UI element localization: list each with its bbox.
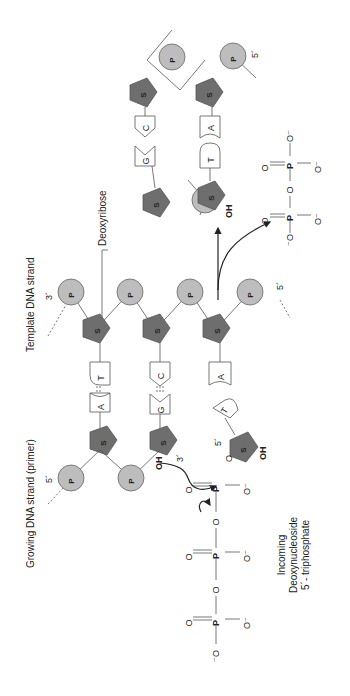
svg-text:A: A: [206, 125, 216, 131]
svg-text:P: P: [127, 478, 136, 484]
svg-text:O: O: [184, 619, 194, 626]
svg-text:P: P: [67, 292, 76, 298]
product-sugar-3: S: [143, 188, 170, 217]
deoxyribose-label: Deoxyribose: [97, 190, 108, 246]
svg-text:T: T: [96, 375, 106, 381]
svg-text:⁻O: ⁻O: [211, 650, 221, 662]
template-phosphate-2: P: [117, 279, 143, 305]
product-sugar-2: S: [196, 78, 223, 107]
svg-text:O⁻: O⁻: [242, 550, 252, 562]
growing-base-A: A: [90, 393, 110, 412]
product-phosphate-1: P: [159, 44, 185, 70]
svg-text:S: S: [93, 328, 102, 334]
svg-text:O: O: [285, 186, 295, 193]
svg-text:P: P: [168, 57, 177, 63]
growing-strand-label: Growing DNA strand (primer): [25, 439, 36, 568]
svg-text:P: P: [285, 215, 295, 221]
svg-text:P: P: [211, 486, 221, 492]
incoming-5-end: 5´: [213, 438, 223, 446]
product-phosphate-2: P: [220, 43, 246, 69]
incoming-base-T: T: [213, 399, 238, 418]
svg-text:S: S: [239, 447, 248, 453]
template-dashed-end: [48, 305, 66, 336]
svg-text:O⁻: O⁻: [242, 483, 252, 495]
svg-text:O⁻: O⁻: [313, 161, 323, 173]
svg-text:P: P: [211, 620, 221, 626]
pyrophosphate-release-arrow: [218, 222, 270, 290]
svg-text:G: G: [156, 406, 166, 413]
svg-text:A: A: [96, 404, 106, 410]
svg-text:A: A: [216, 374, 226, 380]
svg-text:O⁻: O⁻: [285, 130, 295, 142]
product-base-A: A: [200, 116, 220, 138]
incoming-sugar: S: [230, 432, 258, 462]
svg-text:O: O: [260, 164, 270, 171]
svg-text:O⁻: O⁻: [313, 213, 323, 225]
incoming-label-3: 5´- triphosphate: [300, 520, 311, 590]
svg-text:P: P: [229, 56, 238, 62]
template-phosphate-3: P: [177, 279, 203, 305]
growing-sugar-2: S: [150, 426, 177, 455]
template-3-end: 3´: [44, 292, 54, 300]
template-strand-label: Template DNA strand: [25, 258, 36, 353]
growing-5-end: 5´: [44, 475, 54, 483]
template-phosphate-1: P: [58, 279, 84, 305]
svg-text:S: S: [99, 440, 108, 446]
svg-text:P: P: [246, 292, 255, 298]
product-5-end: 5´: [250, 50, 260, 58]
svg-text:⁻O: ⁻O: [285, 234, 295, 246]
svg-text:S: S: [205, 92, 214, 98]
svg-text:S: S: [207, 195, 216, 201]
growing-3-end: 3´: [175, 454, 185, 462]
svg-text:S: S: [139, 92, 148, 98]
template-dashed-end-5: [280, 300, 290, 318]
svg-text:O: O: [184, 486, 194, 493]
incoming-label-1: Incoming: [276, 535, 287, 576]
dna-replication-diagram: Growing DNA strand (primer) Template DNA…: [0, 0, 350, 696]
growing-base-G: G: [150, 394, 170, 414]
svg-text:T: T: [206, 157, 216, 163]
incoming-o: O: [224, 455, 234, 462]
growing-phosphate-2: P: [118, 465, 144, 491]
svg-text:P: P: [285, 163, 295, 169]
template-5-end: 5´: [275, 282, 285, 290]
electron-arrow: [200, 501, 210, 512]
svg-text:O: O: [184, 553, 194, 560]
svg-text:S: S: [153, 328, 162, 334]
product-base-C: C: [135, 116, 155, 137]
svg-text:C: C: [156, 372, 166, 379]
svg-text:O: O: [211, 586, 221, 593]
svg-text:C: C: [141, 124, 151, 131]
svg-text:O⁻: O⁻: [242, 617, 252, 629]
triphosphate: O P O⁻ O O P O⁻ O O P O⁻ ⁻O: [184, 483, 252, 662]
incoming-oh: OH: [258, 447, 268, 461]
svg-text:P: P: [67, 478, 76, 484]
product-base-T: T: [200, 143, 220, 168]
svg-text:S: S: [213, 328, 222, 334]
template-base-T: T: [90, 362, 110, 385]
template-base-C: C: [150, 362, 170, 386]
attack-arrow: [160, 463, 216, 489]
product-sugar-1: S: [130, 78, 157, 107]
pyrophosphate: ⁻O O P O⁻ O O P O⁻ O⁻: [260, 130, 323, 246]
growing-phosphate-1: P: [58, 465, 84, 491]
svg-text:S: S: [152, 202, 161, 208]
product-base-G: G: [135, 146, 155, 166]
product-oh: OH: [224, 205, 234, 219]
svg-text:P: P: [186, 292, 195, 298]
svg-text:O: O: [260, 217, 270, 224]
svg-text:P: P: [126, 292, 135, 298]
template-base-A-unpaired: A: [209, 362, 231, 385]
svg-text:O: O: [211, 518, 221, 525]
growing-sugar-1: S: [90, 426, 117, 455]
incoming-label-2: Deoxynucleoside: [288, 516, 299, 593]
svg-text:G: G: [141, 157, 151, 164]
svg-text:S: S: [159, 440, 168, 446]
svg-text:P: P: [211, 553, 221, 559]
template-phosphate-4: P: [237, 279, 263, 305]
